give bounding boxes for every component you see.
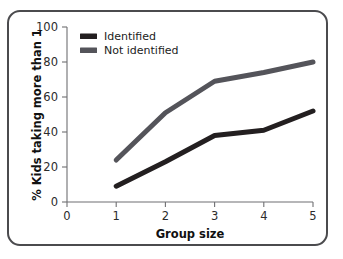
x-tick-label-2: 2 [162, 209, 169, 223]
y-tick-label-20: 20 [43, 160, 58, 174]
chart-legend: Identified Not identified [80, 30, 179, 57]
legend-label-identified: Identified [104, 30, 156, 43]
legend-swatch-identified [80, 34, 97, 40]
chart-figure: 0 20 40 60 80 100 0 1 2 3 4 5 Group size… [0, 0, 343, 259]
y-tick-label-60: 60 [43, 90, 58, 104]
x-tick-label-4: 4 [260, 209, 267, 223]
x-tick-label-3: 3 [211, 209, 218, 223]
series-line-identified [116, 111, 313, 186]
y-tick-label-0: 0 [51, 195, 58, 209]
y-tick-label-40: 40 [43, 125, 58, 139]
y-axis-title: % Kids taking more than 1 [30, 29, 44, 201]
series-line-not-identified [116, 62, 313, 160]
x-axis-title: Group size [156, 227, 225, 241]
y-axis-ticks [62, 27, 67, 202]
line-chart: 0 20 40 60 80 100 0 1 2 3 4 5 Group size… [0, 0, 343, 259]
legend-label-not-identified: Not identified [104, 44, 179, 57]
x-tick-label-0: 0 [63, 209, 70, 223]
y-tick-label-80: 80 [43, 55, 58, 69]
x-tick-label-5: 5 [309, 209, 316, 223]
x-tick-label-1: 1 [113, 209, 120, 223]
legend-swatch-not-identified [80, 48, 97, 54]
x-axis-ticks [67, 202, 313, 207]
